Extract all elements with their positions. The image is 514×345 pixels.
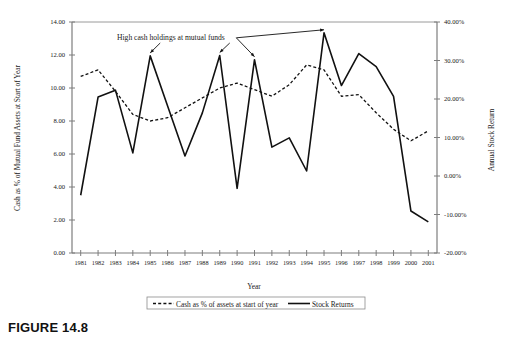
- left-tick-label: 14.00: [50, 18, 66, 25]
- legend-label-cash: Cash as % of assets at start of year: [176, 300, 279, 309]
- left-tick-label: 12.00: [50, 51, 66, 58]
- x-tick-label: 1991: [248, 259, 261, 266]
- x-tick-label: 1984: [127, 259, 140, 266]
- y2-axis-title: Annual Stock Return: [487, 108, 496, 171]
- figure-caption: FIGURE 14.8: [8, 320, 88, 335]
- x-tick-label: 1994: [300, 259, 313, 266]
- right-tick-label: -10.00%: [444, 211, 467, 218]
- right-tick-label: -20.00%: [444, 249, 467, 256]
- legend-label-stock-returns: Stock Returns: [312, 300, 354, 309]
- x-tick-label: 1999: [387, 259, 400, 266]
- left-tick-label: 4.00: [53, 183, 65, 190]
- x-tick-label: 1985: [144, 259, 157, 266]
- right-tick-label: 30.00%: [444, 57, 465, 64]
- x-tick-label: 1990: [231, 259, 244, 266]
- x-tick-label: 1989: [213, 259, 226, 266]
- x-tick-label: 1983: [109, 259, 122, 266]
- x-tick-label: 1996: [335, 259, 348, 266]
- x-tick-label: 1992: [266, 259, 279, 266]
- x-tick-label: 1998: [370, 259, 383, 266]
- x-tick-label: 1986: [161, 259, 174, 266]
- x-tick-label: 1995: [318, 259, 331, 266]
- y-axis-title: Cash as % of Mutual Fund Assets at Start…: [13, 64, 22, 210]
- x-tick-label: 1993: [283, 259, 296, 266]
- left-tick-label: 0.00: [53, 249, 65, 256]
- legend: Cash as % of assets at start of year Sto…: [147, 297, 365, 309]
- x-tick-label: 1982: [92, 259, 105, 266]
- x-tick-label: 1987: [179, 259, 192, 266]
- x-tick-label: 1988: [196, 259, 209, 266]
- left-tick-label: 2.00: [53, 216, 65, 223]
- left-tick-label: 6.00: [53, 150, 65, 157]
- x-axis-title: Year: [247, 282, 261, 291]
- x-tick-label: 2000: [405, 259, 418, 266]
- right-tick-label: 20.00%: [444, 95, 465, 102]
- left-tick-label: 8.00: [53, 117, 65, 124]
- x-tick-label: 2001: [422, 259, 435, 266]
- figure-container: 0.002.004.006.008.0010.0012.0014.00 -20.…: [0, 0, 514, 345]
- left-tick-label: 10.00: [50, 84, 66, 91]
- annotation-text: High cash holdings at mutual funds: [117, 33, 225, 42]
- right-tick-label: 40.00%: [444, 18, 465, 25]
- x-tick-label: 1981: [74, 259, 87, 266]
- chart-canvas: 0.002.004.006.008.0010.0012.0014.00 -20.…: [0, 0, 514, 345]
- x-tick-label: 1997: [352, 259, 365, 266]
- right-tick-label: 10.00%: [444, 134, 465, 141]
- right-tick-label: 0.00%: [444, 172, 462, 179]
